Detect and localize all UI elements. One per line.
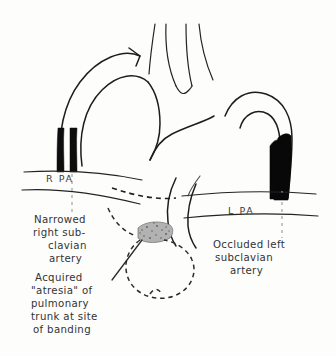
right-subclavian-lumen-dot xyxy=(67,165,69,167)
right-subclavian-narrowed-lateral-limb xyxy=(70,128,77,172)
callout-line-3: clavian xyxy=(48,240,87,251)
banding-site-patch xyxy=(138,222,173,243)
label-rpa: R PA xyxy=(46,173,74,184)
callout-line-2: subclavian xyxy=(215,252,273,263)
anatomy-diagram-svg: R PA L PA Narrowed right sub- clavian ar… xyxy=(0,0,336,356)
right-subclavian-residual-lumen xyxy=(65,130,69,170)
callout-line-1: Acquired xyxy=(35,272,83,283)
right-subclavian-artery-group xyxy=(57,128,77,172)
callout-line-2: right sub- xyxy=(33,227,86,238)
callout-line-1: Narrowed xyxy=(34,214,86,225)
callout-line-4: trunk at site xyxy=(31,311,98,322)
label-lpa: L PA xyxy=(228,205,254,216)
right-subclavian-narrowed-medial-limb xyxy=(57,128,64,172)
callout-line-3: pulmonary xyxy=(31,298,89,309)
callout-line-4: artery xyxy=(49,253,82,264)
banding-site-group xyxy=(138,222,173,243)
callout-line-5: of banding xyxy=(33,324,91,335)
callout-line-2: "atresia" of xyxy=(31,285,93,296)
medical-illustration-figure: R PA L PA Narrowed right sub- clavian ar… xyxy=(0,0,336,356)
callout-line-1: Occluded left xyxy=(213,239,285,250)
callout-line-3: artery xyxy=(230,265,263,276)
